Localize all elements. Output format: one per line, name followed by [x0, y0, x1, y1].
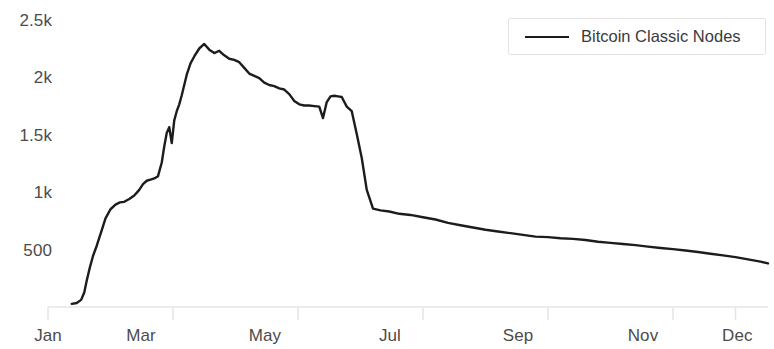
- x-axis-label-dec: Dec: [722, 327, 774, 344]
- chart-legend: Bitcoin Classic Nodes: [508, 18, 766, 55]
- x-axis-label-may: May: [225, 327, 305, 344]
- x-axis-label-nov: Nov: [603, 327, 683, 344]
- series-line-bitcoin-classic-nodes: [72, 44, 768, 304]
- x-axis-label-sep: Sep: [478, 327, 558, 344]
- x-axis-label-mar: Mar: [101, 327, 181, 344]
- legend-line-swatch-icon: [525, 36, 569, 38]
- x-axis-label-jul: Jul: [350, 327, 430, 344]
- line-chart: 2.5k 2k 1.5k 1k 500 Jan Mar May Jul Sep …: [0, 0, 774, 349]
- x-axis: [48, 307, 768, 320]
- y-axis-label-1000: 1k: [0, 184, 52, 201]
- x-axis-label-jan: Jan: [8, 327, 88, 344]
- y-axis-label-2000: 2k: [0, 69, 52, 86]
- legend-item-label: Bitcoin Classic Nodes: [581, 28, 741, 45]
- y-axis-label-1500: 1.5k: [0, 127, 52, 144]
- y-axis-label-2500: 2.5k: [0, 12, 52, 29]
- y-axis-label-500: 500: [0, 242, 52, 259]
